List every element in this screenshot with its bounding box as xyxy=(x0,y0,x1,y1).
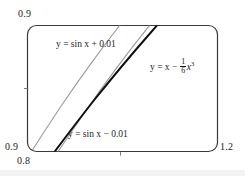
graph-figure: 0.9 0.9 0.8 1.2 y = sin x + 0.01 y = sin… xyxy=(0,0,245,170)
taylor-denominator: 6 xyxy=(180,67,186,75)
curve-label-taylor: y = x − 16x3 xyxy=(150,58,194,75)
y-axis-max-label: 0.9 xyxy=(18,8,31,19)
curve-label-sin-minus: y = sin x − 0.01 xyxy=(68,130,128,140)
x-axis-max-label: 1.2 xyxy=(220,141,233,152)
figure-screenshot: 0.9 0.9 0.8 1.2 y = sin x + 0.01 y = sin… xyxy=(0,0,245,176)
x-axis-min-label: 0.8 xyxy=(17,155,30,166)
taylor-exponent: 3 xyxy=(191,60,194,67)
plot-canvas xyxy=(0,0,245,170)
curve-label-sin-plus: y = sin x + 0.01 xyxy=(56,40,116,50)
figure-bottom-strip xyxy=(0,170,245,176)
taylor-fraction: 16 xyxy=(180,58,186,75)
y-axis-min-label: 0.9 xyxy=(5,141,18,152)
taylor-prefix: y = x − xyxy=(150,62,180,72)
